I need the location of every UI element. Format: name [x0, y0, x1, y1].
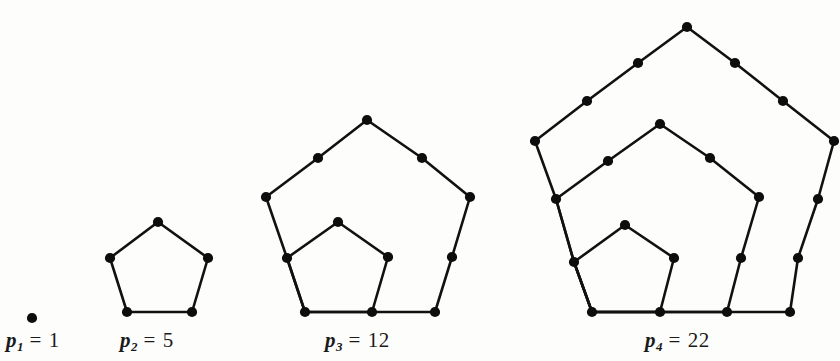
pentagon-vertex-dot	[153, 217, 163, 227]
pentagon-edge	[727, 258, 741, 312]
pentagon-edge	[608, 124, 660, 161]
pentagon-edge	[338, 222, 388, 257]
pentagon-vertex-dot	[736, 253, 746, 263]
pentagon-vertices-layer	[27, 22, 839, 323]
pentagon-vertex-dot	[785, 307, 795, 317]
pentagon-edge	[587, 63, 638, 101]
pentagon-vertex-dot	[465, 192, 475, 202]
figure-p2-vertices	[105, 217, 213, 317]
pentagon-edge	[783, 101, 834, 141]
caption-p1-subscript: 1	[17, 339, 24, 354]
pentagon-vertex-dot	[582, 96, 592, 106]
pentagon-vertex-dot	[754, 192, 764, 202]
pentagon-edge	[372, 257, 388, 312]
pentagon-vertex-dot	[530, 136, 540, 146]
caption-p2-symbol: p	[120, 328, 131, 352]
caption-p4: p4=22	[645, 330, 710, 353]
pentagon-edge	[110, 258, 127, 312]
caption-p2-equals: =	[144, 328, 156, 352]
pentagon-vertex-dot	[633, 58, 643, 68]
pentagon-edge	[790, 258, 798, 312]
figure-p3-edges	[266, 120, 470, 312]
pentagon-edge	[710, 158, 759, 197]
pentagon-vertex-dot	[367, 307, 377, 317]
pentagon-vertex-dot	[300, 307, 310, 317]
pentagon-vertex-dot	[829, 136, 839, 146]
caption-p1: p1=1	[6, 330, 60, 353]
caption-p4-equals: =	[669, 328, 681, 352]
pentagon-vertex-dot	[682, 22, 692, 32]
pentagon-vertex-dot	[313, 153, 323, 163]
pentagon-edge	[735, 63, 783, 101]
pentagon-edge	[287, 222, 338, 258]
pentagon-edge	[660, 124, 710, 158]
pentagon-edge	[535, 101, 587, 141]
caption-p3: p3=12	[325, 330, 390, 353]
pentagon-vertex-dot	[122, 307, 132, 317]
pentagon-edge	[158, 222, 208, 258]
caption-p1-equals: =	[30, 328, 42, 352]
pentagon-edge	[556, 161, 608, 199]
pentagon-vertex-dot	[655, 119, 665, 129]
caption-p2: p2=5	[120, 330, 174, 353]
caption-p3-equals: =	[349, 328, 361, 352]
pentagon-edge	[574, 262, 592, 312]
pentagon-vertex-dot	[813, 194, 823, 204]
pentagon-edge	[556, 199, 574, 262]
pentagon-vertex-dot	[430, 307, 440, 317]
pentagon-vertex-dot	[793, 253, 803, 263]
pentagon-vertex-dot	[333, 217, 343, 227]
pentagon-edges-layer	[110, 27, 834, 312]
pentagon-edge	[741, 197, 759, 258]
pentagon-edge	[110, 222, 158, 258]
caption-p3-symbol: p	[325, 328, 336, 352]
pentagon-vertex-dot	[187, 307, 197, 317]
pentagon-edge	[638, 27, 687, 63]
figure-p4-edges	[535, 27, 834, 312]
caption-p1-value: 1	[49, 328, 60, 352]
caption-p3-value: 12	[368, 328, 390, 352]
figure-p4-vertices	[530, 22, 839, 317]
pentagon-edge	[798, 199, 818, 258]
pentagon-vertex-dot	[722, 307, 732, 317]
pentagon-vertex-dot	[569, 257, 579, 267]
pentagon-edge	[660, 258, 674, 312]
pentagon-vertex-dot	[730, 58, 740, 68]
caption-p4-subscript: 4	[656, 339, 663, 354]
pentagon-edge	[192, 258, 208, 312]
pentagon-vertex-dot	[705, 153, 715, 163]
pentagon-vertex-dot	[655, 307, 665, 317]
pentagon-vertex-dot	[669, 253, 679, 263]
pentagon-vertex-dot	[27, 313, 37, 323]
pentagon-edge	[422, 158, 470, 197]
pentagon-vertex-dot	[603, 156, 613, 166]
pentagon-vertex-dot	[620, 220, 630, 230]
pentagon-edge	[435, 257, 452, 312]
pentagon-edge	[367, 120, 422, 158]
pentagon-vertex-dot	[551, 194, 561, 204]
caption-p2-value: 5	[163, 328, 174, 352]
caption-p1-symbol: p	[6, 328, 17, 352]
pentagon-edge	[287, 258, 305, 312]
pentagon-edge	[535, 141, 556, 199]
pentagon-vertex-dot	[203, 253, 213, 263]
caption-p4-symbol: p	[645, 328, 656, 352]
pentagon-edge	[266, 158, 318, 197]
pentagon-diagram-canvas	[0, 0, 840, 361]
pentagon-edge	[452, 197, 470, 257]
pentagon-vertex-dot	[383, 252, 393, 262]
caption-p3-subscript: 3	[336, 339, 343, 354]
pentagon-edge	[625, 225, 674, 258]
pentagon-vertex-dot	[282, 253, 292, 263]
pentagon-vertex-dot	[261, 192, 271, 202]
pentagon-vertex-dot	[105, 253, 115, 263]
pentagon-vertex-dot	[447, 252, 457, 262]
pentagon-edge	[687, 27, 735, 63]
pentagonal-numbers-figure: p1=1 p2=5 p3=12 p4=22	[0, 0, 840, 361]
caption-p4-value: 22	[688, 328, 710, 352]
pentagon-vertex-dot	[778, 96, 788, 106]
pentagon-vertex-dot	[587, 307, 597, 317]
pentagon-vertex-dot	[362, 115, 372, 125]
pentagon-vertex-dot	[417, 153, 427, 163]
pentagon-edge	[318, 120, 367, 158]
